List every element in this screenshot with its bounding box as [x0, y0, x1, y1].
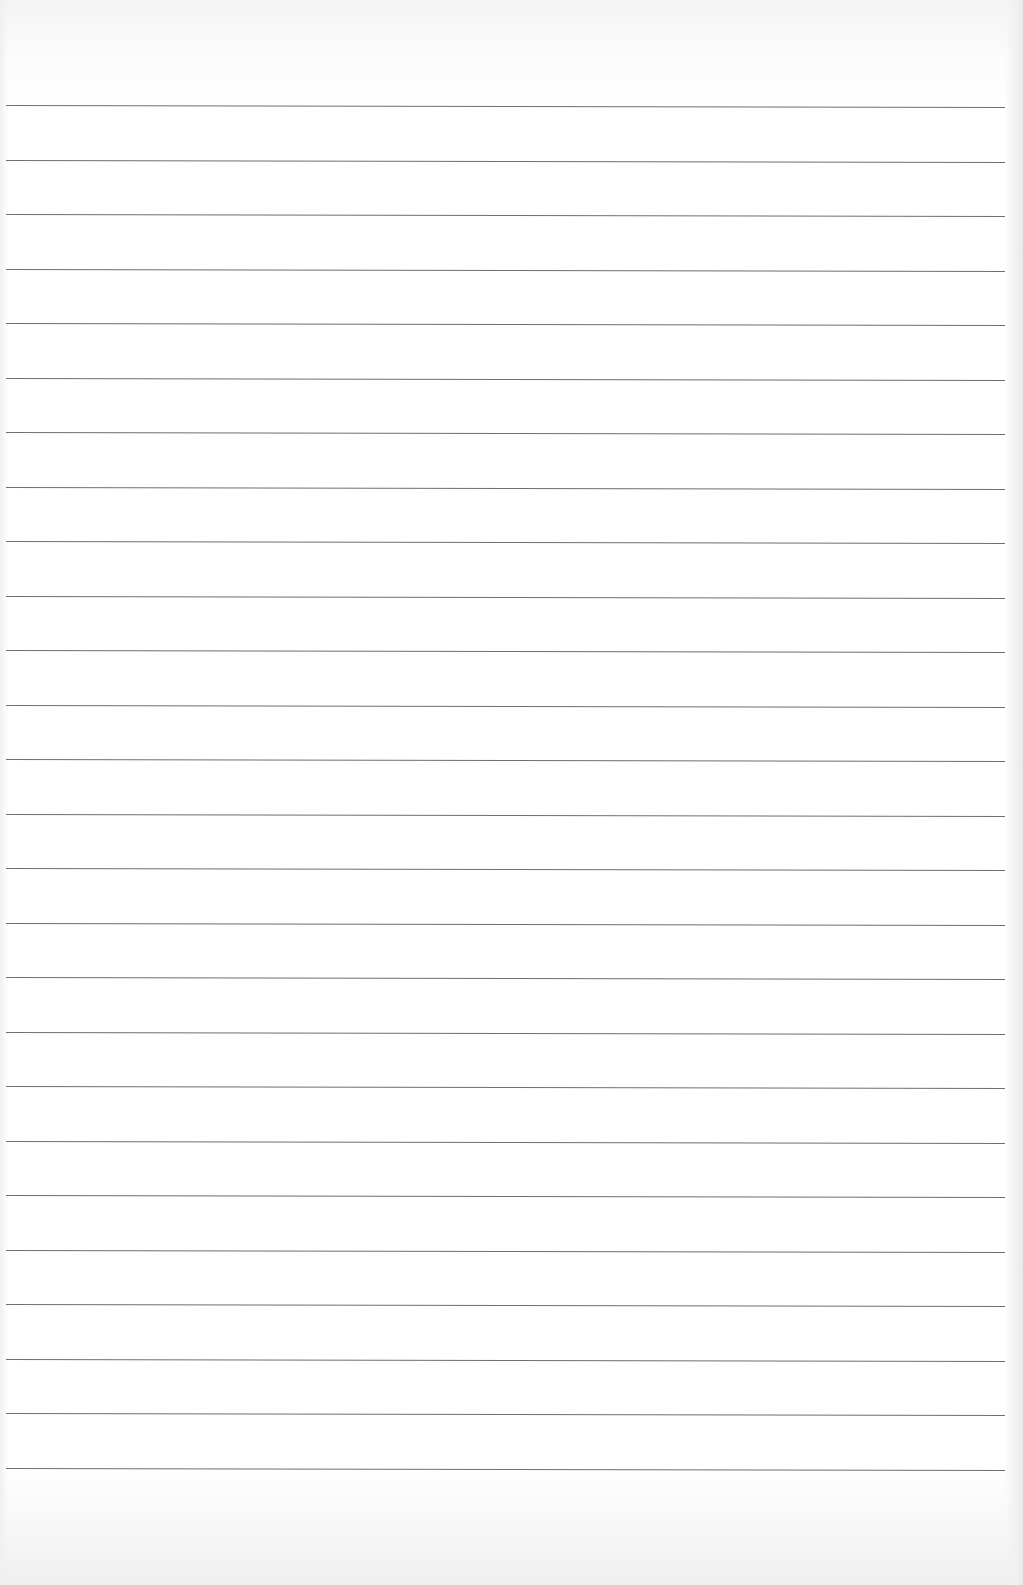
ruled-line: [6, 323, 1005, 326]
ruled-paper-sheet: [0, 0, 1023, 1585]
ruled-line: [6, 650, 1005, 653]
paper-left-shadow: [0, 0, 8, 1585]
ruled-line: [6, 1304, 1005, 1307]
ruled-line: [6, 1359, 1005, 1362]
ruled-line: [6, 541, 1005, 544]
ruled-line: [6, 1250, 1005, 1253]
ruled-line: [6, 1086, 1005, 1089]
ruled-line: [6, 487, 1005, 490]
ruled-line: [6, 705, 1005, 708]
ruled-line: [6, 596, 1005, 599]
ruled-line: [6, 1413, 1005, 1416]
ruled-line: [6, 977, 1005, 980]
ruled-line: [6, 868, 1005, 871]
ruled-line: [6, 1141, 1005, 1144]
ruled-line: [6, 759, 1005, 762]
ruled-line: [6, 269, 1005, 272]
ruled-line: [6, 105, 1005, 108]
paper-right-shadow: [1005, 0, 1023, 1585]
ruled-line: [6, 160, 1005, 163]
ruled-line: [6, 1032, 1005, 1035]
ruled-line: [6, 432, 1005, 435]
ruled-line: [6, 1468, 1005, 1471]
ruled-line: [6, 923, 1005, 926]
ruled-line: [6, 214, 1005, 217]
ruled-line: [6, 378, 1005, 381]
ruled-line: [6, 1195, 1005, 1198]
ruled-line: [6, 814, 1005, 817]
